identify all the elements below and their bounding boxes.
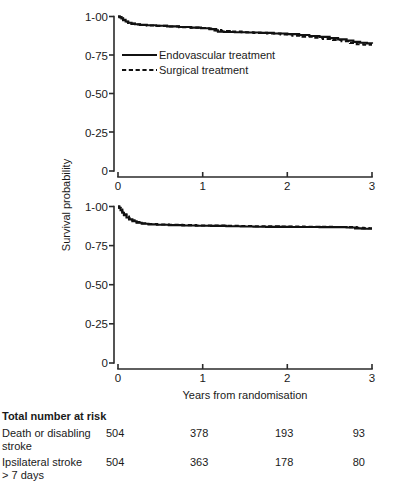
- bottom-ytick-label-4: 1-00: [85, 201, 108, 213]
- top-curve-surgical: [118, 17, 372, 45]
- risk-row-0-value-0: 504: [106, 427, 124, 439]
- panel-top: 1-00 0-75 0-50 0-25 0: [85, 11, 375, 192]
- legend-label-surgical: Surgical treatment: [159, 64, 248, 76]
- risk-row-1-label-line1: Ipsilateral stroke: [2, 456, 82, 468]
- risk-row-1-label-line2: > 7 days: [2, 469, 44, 481]
- risk-row-0-value-1: 378: [190, 427, 208, 439]
- risk-table-title: Total number at risk: [2, 410, 107, 422]
- top-y-tick-labels: 1-00 0-75 0-50 0-25 0: [85, 11, 108, 177]
- top-xtick-label-1: 1: [199, 180, 205, 192]
- top-ytick-label-3: 0-75: [85, 50, 108, 62]
- bottom-xtick-label-1: 1: [199, 372, 205, 384]
- bottom-y-tick-labels: 1-00 0-75 0-50 0-25 0: [85, 201, 108, 369]
- top-ytick-label-1: 0-25: [85, 127, 108, 139]
- bottom-xtick-label-3: 3: [369, 372, 375, 384]
- bottom-ytick-label-3: 0-75: [85, 240, 108, 252]
- top-xtick-label-0: 0: [115, 180, 121, 192]
- risk-row-0-label-line2: stroke: [2, 440, 32, 452]
- risk-row-1-value-0: 504: [106, 456, 124, 468]
- top-ytick-label-0: 0: [102, 165, 108, 177]
- y-axis-title: Survival probability: [60, 158, 72, 251]
- legend-label-endovascular: Endovascular treatment: [159, 49, 275, 61]
- risk-row-1-value-1: 363: [190, 456, 208, 468]
- table-row: Ipsilateral stroke > 7 days 504 363 178 …: [2, 456, 365, 481]
- risk-row-0-value-3: 93: [353, 427, 365, 439]
- top-ytick-label-2: 0-50: [85, 88, 108, 100]
- top-ytick-label-4: 1-00: [85, 11, 108, 23]
- risk-table: Total number at risk Death or disabling …: [2, 410, 365, 481]
- bottom-ytick-label-2: 0-50: [85, 279, 108, 291]
- bottom-xtick-label-2: 2: [284, 372, 290, 384]
- bottom-ytick-label-0: 0: [102, 357, 108, 369]
- bottom-x-tick-labels: 0 1 2 3: [115, 372, 375, 384]
- top-xtick-label-2: 2: [284, 180, 290, 192]
- risk-row-0-label-line1: Death or disabling: [2, 427, 91, 439]
- risk-row-1-value-3: 80: [353, 456, 365, 468]
- risk-row-1-value-2: 178: [275, 456, 293, 468]
- legend: Endovascular treatment Surgical treatmen…: [122, 49, 275, 76]
- y-axis-title-text: Survival probability: [60, 158, 72, 251]
- top-x-tick-labels: 0 1 2 3: [115, 180, 375, 192]
- survival-figure: Survival probability 1-00 0-75 0-50 0-25…: [0, 0, 402, 491]
- x-axis-title: Years from randomisation: [183, 389, 308, 401]
- panel-bottom: 1-00 0-75 0-50 0-25 0: [85, 201, 375, 384]
- bottom-ytick-label-1: 0-25: [85, 318, 108, 330]
- table-row: Death or disabling stroke 504 378 193 93: [2, 427, 365, 452]
- bottom-xtick-label-0: 0: [115, 372, 121, 384]
- top-xtick-label-3: 3: [369, 180, 375, 192]
- risk-row-0-value-2: 193: [275, 427, 293, 439]
